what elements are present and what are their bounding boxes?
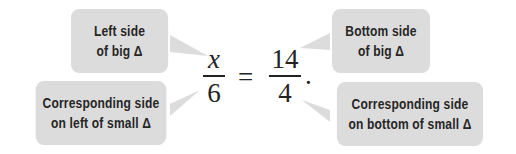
denominator-6: 6 <box>207 80 221 106</box>
callout-text: Left side <box>94 21 145 41</box>
fraction-bar <box>269 75 301 77</box>
callout-bottom-side-big: Bottom side of big Δ <box>332 9 430 73</box>
callout-left-side-big: Left side of big Δ <box>71 9 168 73</box>
callout-text: Corresponding side <box>352 94 469 114</box>
callout-text: of big Δ <box>358 41 404 61</box>
equals-sign: = <box>238 62 253 93</box>
callout-text: of big Δ <box>96 41 142 61</box>
callout-text: Bottom side <box>345 21 416 41</box>
denominator-4: 4 <box>278 80 292 106</box>
period: . <box>305 60 312 91</box>
fraction-bar <box>203 75 225 77</box>
numerator-14: 14 <box>272 46 299 72</box>
callout-text: on left of small Δ <box>51 113 151 133</box>
callout-text: Corresponding side <box>43 93 160 113</box>
numerator-x: x <box>208 46 220 72</box>
fraction-left: x 6 <box>202 46 226 106</box>
callout-bottom-side-small: Corresponding side on bottom of small Δ <box>337 82 483 146</box>
callout-text: on bottom of small Δ <box>348 114 471 134</box>
fraction-right: 14 4 <box>268 46 302 106</box>
callout-left-side-small: Corresponding side on left of small Δ <box>36 81 167 145</box>
